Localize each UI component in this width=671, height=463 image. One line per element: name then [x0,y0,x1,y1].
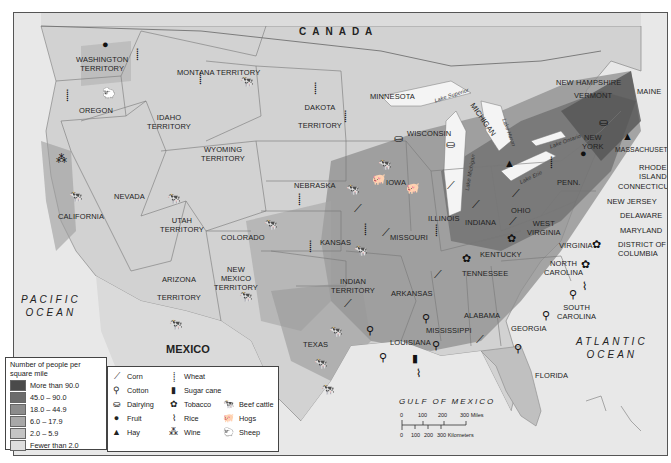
region-label-idaho: IDAHOTERRITORY [147,113,191,131]
beef-cattle-icon: 🐄 [169,319,183,330]
legend-label: Hogs [239,414,256,423]
rice-icon: ⌇ [416,368,421,379]
tobacco-icon: ✿ [168,399,179,409]
dairying-icon: ⛀ [111,399,122,409]
legend-item-sugar-cane: ▮Sugar cane [168,384,221,396]
legend-title-line: Number of people per [10,360,103,369]
legend-item-beef-cattle: 🐄Beef cattle [223,398,273,410]
legend-item-hay: ▲Hay [111,426,140,438]
wheat-icon: ⸽ [435,225,438,236]
corn-icon: ⟋ [476,334,484,345]
region-label-oregon: OREGON [79,106,113,115]
legend-entry: 2.0 – 5.9 [6,427,106,439]
legend-label: Sugar cane [184,386,221,395]
label-line: TERRITORY [298,121,342,130]
label-line: DISTRICT OF [618,240,666,249]
hogs-icon: 🐖 [406,183,420,194]
wheat-icon: ⸽ [168,370,179,383]
region-label-west-virginia: WESTVIRGINIA [527,219,561,237]
region-label-vermont: VERMONT [574,91,612,100]
region-label-south-carolina: SOUTHCAROLINA [557,303,596,321]
cotton-icon: ⚲ [432,340,440,351]
legend-label: Fruit [127,414,142,423]
sheep-icon: 🐑 [102,88,116,99]
region-label-illinois: ILLINOIS [428,214,460,223]
corn-icon: ⟋ [344,298,352,309]
wheat-icon: ⸽ [364,224,367,235]
label-line: TERRITORY [331,286,375,295]
region-label-tennessee: TENNESSEE [462,269,508,278]
label-line: TERRITORY [76,64,128,73]
region-label-minnesota: MINNESOTA [370,92,415,101]
label-line: NEW [214,265,258,274]
region-label-nevada: NEVADA [114,192,145,201]
scale-tick-label: 0 [400,432,403,438]
wheat-icon: ⸽ [344,111,347,122]
region-label-florida: FLORIDA [535,371,568,380]
legend-item-wine: ⁂Wine [168,426,201,438]
corn-icon: ⟋ [472,199,480,210]
corn-icon: ⟋ [434,269,442,280]
region-label-alabama: ALABAMA [464,311,500,320]
cotton-icon: ⚲ [366,325,374,336]
region-label-kentucky: KENTUCKY [480,250,522,259]
region-label-delaware: DELAWARE [620,211,662,220]
legend-label: Wheat [184,372,205,381]
region-label-california: CALIFORNIA [58,212,104,221]
legend-label: 6.0 – 17.9 [30,417,62,426]
legend-label: Corn [127,372,143,381]
legend-label: Fewer than 2.0 [30,441,79,450]
ocean-label-line: PACIFIC [21,293,81,306]
corn-icon: ⟋ [111,371,122,382]
wheat-icon: ⸽ [199,73,202,84]
corn-icon: ⟋ [512,188,520,199]
rice-icon: ⌇ [168,413,179,423]
region-label-massachusetts: MASSACHUSETTS [615,145,668,154]
region-label-dakota: DAKOTATERRITORY [298,103,342,130]
region-label-north-carolina: NORTHCAROLINA [544,259,583,277]
corn-icon: ⟋ [447,180,455,191]
sugar-cane-icon: ▮ [168,385,179,395]
beef-cattle-icon: 🐄 [69,191,83,202]
label-line: WASHINGTON [76,55,128,64]
label-line: DAKOTA [298,103,342,112]
legend-entry: 6.0 – 17.9 [6,415,106,427]
rice-icon: ⌇ [582,281,587,292]
sheep-icon: 🐑 [223,427,234,437]
region-label-nebraska: NEBRASKA [294,181,336,190]
label-line: TERRITORY [147,122,191,131]
label-line: MEXICO [214,274,258,283]
ocean-label-line: OCEAN [21,306,81,319]
wheat-icon: ⸽ [314,83,317,94]
corn-icon: ⟋ [354,203,362,214]
legend-entry: Fewer than 2.0 [6,439,106,451]
legend-item-hogs: 🐖Hogs [223,412,256,424]
legend-entry: 45.0 – 90.0 [6,391,106,403]
region-label-iowa: IOWA [386,178,406,187]
region-label-kansas: KANSAS [320,238,351,247]
label-line: SOUTH [557,303,596,312]
legend-item-corn: ⟋Corn [111,370,143,382]
label-line: NEW [582,133,604,142]
scale-tick-label: 200 [424,432,433,438]
region-label-washington: WASHINGTONTERRITORY [76,55,128,73]
wheat-icon: ⸽ [136,49,139,60]
wheat-icon: ⸽ [66,90,69,101]
legend-item-wheat: ⸽Wheat [168,370,205,382]
label-line: NORTH [544,259,583,268]
region-label-rhode-island: RHODEISLAND [639,163,667,181]
legend-entry: 18.0 – 44.9 [6,403,106,415]
sugar-cane-icon: ▮ [412,353,418,364]
cotton-icon: ⚲ [569,289,577,300]
region-label-wyoming: WYOMINGTERRITORY [201,145,245,163]
legend-item-dairying: ⛀Dairying [111,398,154,410]
scale-tick-label: 300 Kilometers [437,432,474,438]
label-line: RHODE [639,163,667,172]
cotton-icon: ⚲ [379,352,387,363]
scale-tick-label: 0 [400,412,403,418]
legend-label: Sheep [239,428,260,437]
dairying-icon: ⛀ [394,133,403,144]
region-label-new-jersey: NEW JERSEY [607,197,657,206]
cotton-icon: ⚲ [514,343,522,354]
scale-tick-label: 300 Miles [460,412,484,418]
